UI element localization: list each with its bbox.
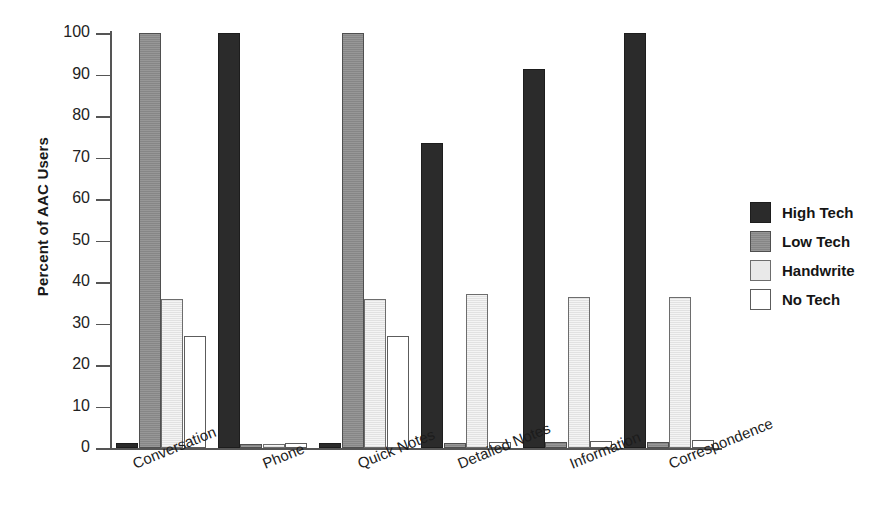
bar-high-tech[interactable] (421, 143, 443, 448)
y-axis-tick-label: 20 (24, 355, 90, 373)
bar-group (116, 33, 206, 448)
y-axis-tick (96, 199, 110, 201)
bar-handwrite[interactable] (161, 299, 183, 448)
bar-low-tech[interactable] (545, 442, 567, 448)
y-axis-tick (96, 448, 110, 450)
bar-low-tech[interactable] (139, 33, 161, 448)
y-axis-tick-label: 70 (24, 148, 90, 166)
bar-high-tech[interactable] (624, 33, 646, 448)
bar-low-tech[interactable] (240, 444, 262, 448)
bar-group (624, 33, 714, 448)
bar-low-tech[interactable] (647, 442, 669, 448)
bar-handwrite[interactable] (568, 297, 590, 448)
y-axis-tick (96, 158, 110, 160)
y-axis-title: Percent of AAC Users (34, 87, 51, 347)
bar-high-tech[interactable] (116, 443, 138, 448)
legend-swatch-no-tech (750, 289, 771, 310)
legend-label: No Tech (782, 291, 840, 308)
legend-label: High Tech (782, 204, 853, 221)
legend-label: Low Tech (782, 233, 850, 250)
legend-item-handwrite[interactable]: Handwrite (750, 256, 855, 285)
y-axis-tick (96, 116, 110, 118)
y-axis-tick-label: 90 (24, 65, 90, 83)
y-axis-tick-label: 80 (24, 106, 90, 124)
bar-high-tech[interactable] (319, 443, 341, 448)
legend-swatch-handwrite (750, 260, 771, 281)
bar-group (523, 33, 613, 448)
y-axis-tick-label: 60 (24, 189, 90, 207)
y-axis-tick-label: 10 (24, 397, 90, 415)
y-axis-tick (96, 324, 110, 326)
legend-item-no-tech[interactable]: No Tech (750, 285, 855, 314)
legend-label: Handwrite (782, 262, 855, 279)
bar-no-tech[interactable] (387, 336, 409, 448)
bar-handwrite[interactable] (669, 297, 691, 448)
plot-area (110, 33, 720, 448)
legend-item-high-tech[interactable]: High Tech (750, 198, 855, 227)
bar-high-tech[interactable] (523, 69, 545, 448)
legend-swatch-high-tech (750, 202, 771, 223)
y-axis-tick-label: 0 (24, 438, 90, 456)
chart-legend: High TechLow TechHandwriteNo Tech (750, 198, 855, 314)
bar-group (218, 33, 308, 448)
bar-handwrite[interactable] (364, 299, 386, 448)
y-axis-tick (96, 75, 110, 77)
y-axis-tick-label: 40 (24, 272, 90, 290)
bar-low-tech[interactable] (342, 33, 364, 448)
bar-group (421, 33, 511, 448)
y-axis-tick (96, 33, 110, 35)
y-axis-tick (96, 282, 110, 284)
y-axis-tick-label: 50 (24, 231, 90, 249)
legend-item-low-tech[interactable]: Low Tech (750, 227, 855, 256)
y-axis-tick (96, 241, 110, 243)
bar-high-tech[interactable] (218, 33, 240, 448)
y-axis-tick (96, 365, 110, 367)
y-axis-tick (96, 407, 110, 409)
bar-chart: Percent of AAC Users 0102030405060708090… (0, 0, 894, 531)
legend-swatch-low-tech (750, 231, 771, 252)
bar-handwrite[interactable] (466, 294, 488, 448)
y-axis-tick-label: 100 (24, 23, 90, 41)
y-axis-tick-label: 30 (24, 314, 90, 332)
bar-low-tech[interactable] (444, 443, 466, 448)
bar-group (319, 33, 409, 448)
